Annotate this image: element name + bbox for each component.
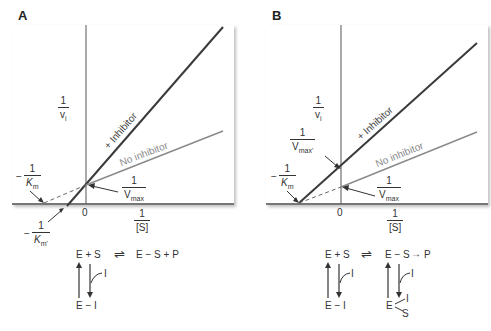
up-arrow-icon: [385, 262, 391, 268]
panel-b-scheme-arrows: [0, 0, 491, 331]
down-arrow-icon: [336, 292, 342, 298]
up-arrow-icon: [325, 262, 331, 268]
down-arrow-icon: [396, 292, 402, 298]
